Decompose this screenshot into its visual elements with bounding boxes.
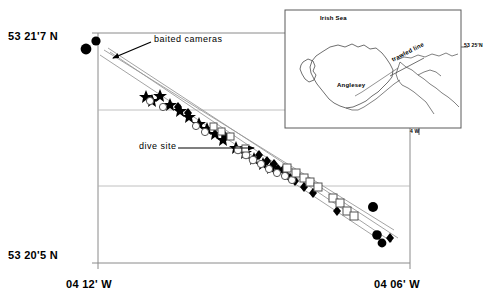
- marker-group-open-squares: [210, 123, 358, 220]
- open-circle-marker: [265, 165, 272, 172]
- open-square-marker: [292, 169, 300, 177]
- open-square-marker: [227, 133, 234, 140]
- open-circle-marker: [192, 122, 199, 129]
- open-square-marker: [336, 199, 344, 207]
- filled-circle-marker: [368, 202, 378, 212]
- y-axis-bottom-label: 53 20'5 N: [8, 249, 58, 261]
- open-square-marker: [306, 178, 314, 186]
- open-circle-marker: [257, 160, 264, 167]
- figure-canvas: [0, 0, 502, 303]
- open-square-marker: [218, 128, 225, 135]
- inset-longitude-label: 4 W: [410, 128, 420, 134]
- open-square-marker: [350, 212, 358, 220]
- annotation-dive-site-label: dive site: [139, 141, 177, 151]
- inset-map: [285, 10, 468, 135]
- open-circle-marker: [234, 146, 242, 154]
- baited-cameras-leader: [113, 42, 151, 58]
- x-axis-left-label: 04 12' W: [66, 278, 112, 290]
- inset-irish-sea-label: Irish Sea: [320, 15, 347, 21]
- inset-latitude-label: 53 25'N: [464, 42, 483, 48]
- inset-frame: [285, 10, 461, 128]
- figure-survey-map: 53 21'7 N 53 20'5 N 04 12' W 04 06' W ba…: [0, 0, 502, 303]
- marker-group-track-endpoints: [368, 202, 394, 247]
- inset-anglesey-label: Anglesey: [337, 82, 365, 88]
- open-circle-marker: [146, 97, 153, 104]
- open-circle-marker: [281, 172, 288, 179]
- open-circle-marker: [159, 103, 166, 110]
- annotation-leaders: [113, 42, 254, 148]
- filled-circle-marker: [81, 44, 92, 55]
- open-square-marker: [210, 123, 217, 130]
- open-square-marker: [283, 164, 291, 172]
- filled-circle-marker: [378, 239, 387, 248]
- filled-circle-marker: [372, 230, 382, 240]
- open-circle-marker: [249, 156, 257, 164]
- open-circle-marker: [201, 128, 208, 135]
- x-axis-right-label: 04 06' W: [374, 278, 420, 290]
- y-axis-top-label: 53 21'7 N: [8, 30, 58, 42]
- annotation-baited-cameras-label: baited cameras: [154, 34, 223, 44]
- open-circle-marker: [273, 169, 280, 176]
- filled-circle-marker: [91, 36, 100, 45]
- open-square-marker: [314, 183, 322, 191]
